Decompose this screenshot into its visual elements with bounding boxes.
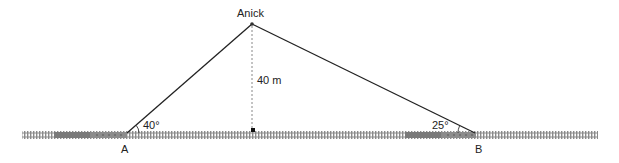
point-b-label: B	[475, 144, 482, 155]
train-a	[54, 132, 126, 138]
height-label: 40 m	[257, 75, 281, 86]
right-angle-marker	[251, 128, 255, 132]
sight-line-b	[252, 24, 475, 133]
observer-point	[250, 22, 254, 26]
point-a-label: A	[121, 144, 128, 155]
angle-a-label: 40°	[143, 120, 160, 131]
angle-b-label: 25°	[432, 120, 449, 131]
observer-label: Anick	[237, 8, 264, 19]
train-b	[405, 132, 476, 138]
trig-diagram	[0, 0, 619, 163]
sight-line-a	[127, 24, 252, 133]
